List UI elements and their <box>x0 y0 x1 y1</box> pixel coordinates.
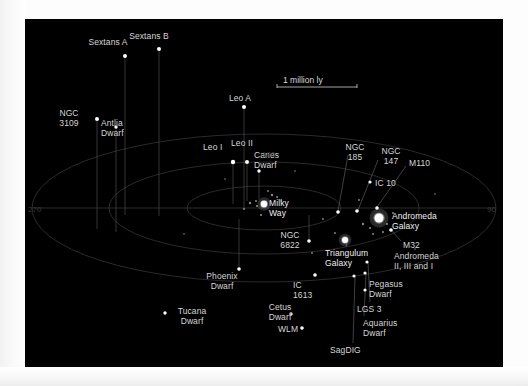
label-leo-i[interactable]: Leo I <box>203 143 222 153</box>
label-m32[interactable]: M32 <box>403 241 420 251</box>
field-star <box>260 214 262 216</box>
marker-ic-10[interactable] <box>368 180 371 183</box>
label-triangulum-galaxy[interactable]: Triangulum Galaxy <box>325 249 368 268</box>
field-star <box>224 178 226 180</box>
degree-marker-90: 90 <box>487 205 496 214</box>
marker-ic-1613[interactable] <box>313 273 317 277</box>
marker-leo-ii[interactable] <box>245 160 249 164</box>
label-pegasus-dwarf[interactable]: Pegasus Dwarf <box>369 280 403 299</box>
marker-ngc-147[interactable] <box>355 209 359 213</box>
marker-sextans-b[interactable] <box>157 47 161 51</box>
marker-milky-way[interactable] <box>261 201 267 207</box>
field-star <box>255 200 257 202</box>
label-antlia-dwarf[interactable]: Antlia Dwarf <box>101 119 124 138</box>
marker-sagdig[interactable] <box>352 274 355 277</box>
field-star <box>311 252 313 254</box>
field-star <box>183 233 185 235</box>
marker-andromeda-galaxy[interactable] <box>375 214 384 223</box>
marker-aquarius-dwarf[interactable] <box>363 271 366 274</box>
label-sagdig[interactable]: SagDIG <box>330 346 361 356</box>
label-tucana-dwarf[interactable]: Tucana Dwarf <box>163 307 221 326</box>
label-andromeda-ii-iii-and-i[interactable]: Andromeda II, III and I <box>394 252 439 271</box>
field-star <box>243 208 245 210</box>
label-cetus-dwarf[interactable]: Cetus Dwarf <box>251 303 309 322</box>
page-edge-bottom <box>0 367 528 386</box>
field-star <box>369 227 371 229</box>
marker-leo-a[interactable] <box>242 105 246 109</box>
marker-wlm[interactable] <box>300 326 304 330</box>
field-star <box>434 193 436 195</box>
label-ic-1613[interactable]: IC 1613 <box>293 281 312 300</box>
label-phoenix-dwarf[interactable]: Phoenix Dwarf <box>193 272 251 291</box>
marker-ngc-185[interactable] <box>336 210 340 214</box>
label-ngc-6822[interactable]: NGC 6822 <box>261 231 319 250</box>
ngc185-leader <box>338 155 348 211</box>
degree-marker-180: 180 <box>262 150 275 159</box>
label-lgs-3[interactable]: LGS 3 <box>357 305 382 315</box>
label-leo-a[interactable]: Leo A <box>211 94 269 104</box>
label-aquarius-dwarf[interactable]: Aquarius Dwarf <box>363 319 397 338</box>
field-star <box>372 233 374 235</box>
scale-bar-label: 1 million ly <box>283 75 323 85</box>
label-wlm[interactable]: WLM <box>278 325 298 335</box>
m32-leader <box>392 231 401 241</box>
label-milky-way[interactable]: Milky Way <box>269 199 289 218</box>
field-star <box>294 170 296 172</box>
degree-marker-270: 270 <box>28 205 41 214</box>
field-star <box>249 202 251 204</box>
field-star <box>271 194 273 196</box>
label-andromeda-galaxy[interactable]: Andromeda Galaxy <box>392 212 437 231</box>
label-ic-10[interactable]: IC 10 <box>375 179 396 189</box>
field-star <box>322 218 324 220</box>
field-star <box>267 190 269 192</box>
marker-leo-i[interactable] <box>231 160 235 164</box>
field-star <box>334 232 336 234</box>
label-sextans-b[interactable]: Sextans B <box>120 32 178 42</box>
field-star <box>362 223 364 225</box>
page-edge-left <box>0 0 26 386</box>
label-leo-ii[interactable]: Leo II <box>231 139 253 149</box>
local-group-sky-panel: Sextans ASextans BNGC 3109Antlia DwarfLe… <box>25 19 503 367</box>
figure-page: Sextans ASextans BNGC 3109Antlia DwarfLe… <box>0 0 528 386</box>
marker-triangulum-galaxy[interactable] <box>342 237 348 243</box>
sagdig-leader <box>353 277 355 343</box>
field-star <box>382 231 384 233</box>
marker-sextans-a[interactable] <box>123 54 127 58</box>
label-ngc-3109[interactable]: NGC 3109 <box>40 109 98 128</box>
marker-pegasus-dwarf[interactable] <box>363 288 366 291</box>
label-m110[interactable]: M110 <box>409 159 430 169</box>
field-star <box>358 199 360 201</box>
